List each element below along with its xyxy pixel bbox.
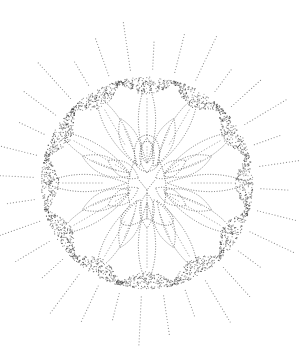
mandala-illustration — [0, 0, 299, 348]
petal-outline — [164, 155, 212, 178]
seated-figure — [121, 135, 174, 225]
petal-outline — [96, 200, 137, 271]
petal-vein — [104, 222, 125, 258]
petal-outline — [153, 200, 176, 248]
sun-rays — [0, 22, 299, 345]
petal-vein — [169, 222, 190, 258]
petal-vein — [124, 128, 134, 152]
petal-vein — [186, 140, 222, 161]
petal-outline — [96, 95, 137, 166]
petal-vein — [160, 214, 170, 238]
petal-outline — [119, 118, 142, 166]
lotus-petals — [45, 81, 249, 285]
petal-outline — [164, 193, 235, 234]
petal-vein — [169, 109, 190, 145]
petal-vein — [73, 140, 109, 161]
petal-outline — [164, 132, 235, 173]
petal-vein — [73, 205, 109, 226]
petal-vein — [160, 128, 170, 152]
petal-outline — [82, 189, 130, 212]
petal-outline — [59, 193, 130, 234]
petal-outline — [59, 132, 130, 173]
petal-vein — [104, 109, 125, 145]
petal-vein — [124, 214, 134, 238]
petal-vein — [186, 205, 222, 226]
